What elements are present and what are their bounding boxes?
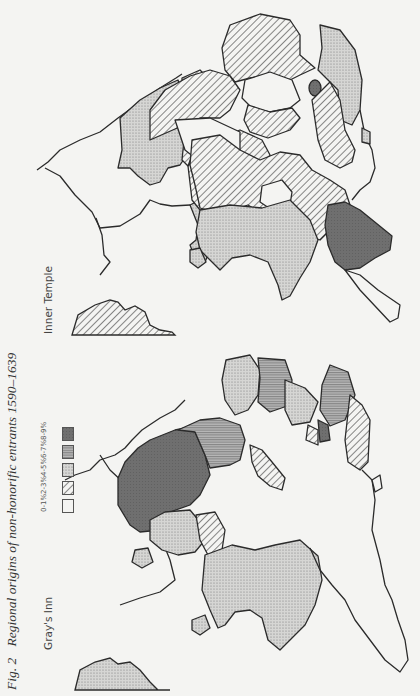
grays-inn-fragment bbox=[75, 658, 170, 690]
legend-swatch-horizontal-icon bbox=[62, 445, 74, 459]
inner-temple-map bbox=[37, 14, 400, 322]
grays-inn-map bbox=[65, 355, 408, 672]
figure-caption-text: Regional origins of non-honorific entran… bbox=[4, 353, 19, 647]
grays-inn-label: Gray's Inn bbox=[42, 597, 54, 650]
legend-swatch-hatch-icon bbox=[62, 481, 74, 495]
figure-number: Fig. 2 bbox=[4, 658, 19, 690]
inner-temple-fragment bbox=[72, 300, 175, 335]
inner-temple-label: Inner Temple bbox=[42, 266, 54, 334]
map-figure bbox=[0, 0, 420, 696]
legend-swatch-stipple-icon bbox=[62, 463, 74, 477]
figure-caption: Fig. 2 Regional origins of non-honorific… bbox=[4, 353, 20, 690]
legend-swatch-blank-icon bbox=[62, 499, 74, 513]
figure-page: Fig. 2 Regional origins of non-honorific… bbox=[0, 0, 420, 696]
legend-swatch-dark-icon bbox=[62, 427, 74, 441]
